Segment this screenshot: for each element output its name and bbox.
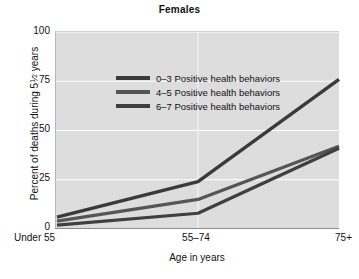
- chart-figure: Females Percent of deaths during 51⁄2 ye…: [0, 0, 359, 279]
- legend-item-6-7: 6–7 Positive health behaviors: [116, 99, 316, 113]
- y-tick-label-50: 50: [6, 123, 50, 134]
- legend-item-4-5: 4–5 Positive health behaviors: [116, 85, 316, 99]
- x-tick-label-under-55: Under 55: [14, 232, 96, 243]
- y-tick-label-0: 0: [6, 221, 50, 232]
- legend-label-6-7: 6–7 Positive health behaviors: [156, 101, 280, 112]
- x-tick-label-75-plus: 75+: [300, 232, 352, 243]
- y-tick-label-25: 25: [6, 172, 50, 183]
- y-tick-label-100: 100: [6, 25, 50, 36]
- chart-legend: 0–3 Positive health behaviors 4–5 Positi…: [116, 71, 316, 113]
- x-axis-line: [55, 228, 339, 229]
- legend-item-0-3: 0–3 Positive health behaviors: [116, 71, 316, 85]
- chart-title: Females: [0, 4, 359, 15]
- legend-swatch-icon-6-7: [116, 104, 150, 108]
- legend-label-4-5: 4–5 Positive health behaviors: [156, 87, 280, 98]
- plot-canvas: [56, 32, 340, 229]
- legend-label-0-3: 0–3 Positive health behaviors: [156, 73, 280, 84]
- y-tick-label-75: 75: [6, 74, 50, 85]
- x-tick-label-55-74: 55–74: [160, 232, 232, 243]
- legend-swatch-icon-0-3: [116, 76, 150, 80]
- plot-area: 0–3 Positive health behaviors 4–5 Positi…: [55, 31, 339, 228]
- x-axis-title: Age in years: [55, 252, 339, 263]
- legend-swatch-icon-4-5: [116, 90, 150, 94]
